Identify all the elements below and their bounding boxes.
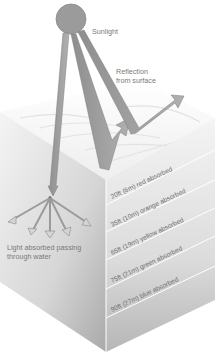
water-block bbox=[0, 80, 215, 352]
sun-icon bbox=[56, 4, 86, 34]
absorbed-label-line1: Light absorbed passing bbox=[7, 243, 81, 252]
reflection-label-line1: Reflection bbox=[116, 67, 148, 76]
sunlight-label: Sunlight bbox=[92, 27, 118, 36]
absorbed-label-line2: through water bbox=[7, 252, 52, 261]
light-absorption-diagram: Sunlight Reflection from surface Light a… bbox=[0, 0, 215, 352]
reflection-label-line2: from surface bbox=[116, 76, 156, 85]
